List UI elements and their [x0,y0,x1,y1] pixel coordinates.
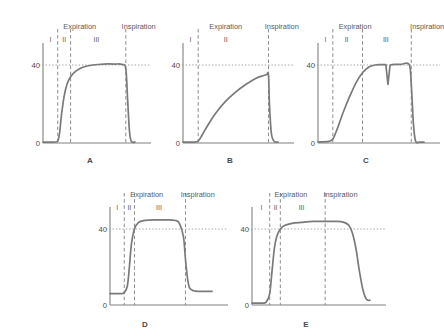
inspiration-label-d: Inspiration [181,190,215,199]
y-tick-40-e: 40 [219,225,249,234]
expiration-label-c: Expiration [339,22,372,31]
waveform-trace-d [110,220,212,294]
panel-letter-b: B [220,156,240,165]
y-tick-40-d: 40 [77,225,107,234]
phase-label-ii-c: II [345,36,349,43]
phase-label-i-b: I [190,36,192,43]
panel-letter-c: C [356,156,376,165]
phase-label-iii-c: III [383,36,389,43]
phase-label-i-c: I [324,36,326,43]
panel-b [179,29,294,143]
phase-label-ii-a: II [62,36,66,43]
phase-label-i-a: I [49,36,51,43]
y-tick-0-c: 0 [285,139,315,148]
waveform-trace-b [183,73,278,143]
y-tick-40-c: 40 [285,61,315,70]
y-tick-40-b: 40 [150,61,180,70]
y-tick-40-a: 40 [10,61,40,70]
inspiration-label-e: Inspiration [323,190,357,199]
expiration-label-b: Expiration [209,22,242,31]
phase-label-ii-d: II [127,204,131,211]
phase-label-iii-a: III [93,36,99,43]
phase-label-i-e: I [260,204,262,211]
expiration-label-d: Expiration [130,190,163,199]
panel-letter-d: D [135,320,155,329]
phase-label-ii-b: II [224,36,228,43]
panel-d [106,193,228,305]
y-tick-0-e: 0 [219,301,249,310]
expiration-label-e: Expiration [275,190,308,199]
panel-letter-a: A [80,156,100,165]
y-tick-0-b: 0 [150,139,180,148]
y-tick-0-a: 0 [10,139,40,148]
phase-label-ii-e: II [274,204,278,211]
waveform-trace-c [318,63,424,143]
waveform-trace-a [43,64,135,142]
inspiration-label-a: Inspiration [122,22,156,31]
y-tick-0-d: 0 [77,301,107,310]
expiration-label-a: Expiration [63,22,96,31]
panel-c [314,29,440,143]
panel-e [248,193,386,305]
phase-label-iii-d: III [156,204,162,211]
phase-label-i-d: I [116,204,118,211]
phase-label-iii-e: III [299,204,305,211]
inspiration-label-c: Inspiration [410,22,444,31]
panel-letter-e: E [296,320,316,329]
panel-a [39,29,151,143]
inspiration-label-b: Inspiration [265,22,299,31]
